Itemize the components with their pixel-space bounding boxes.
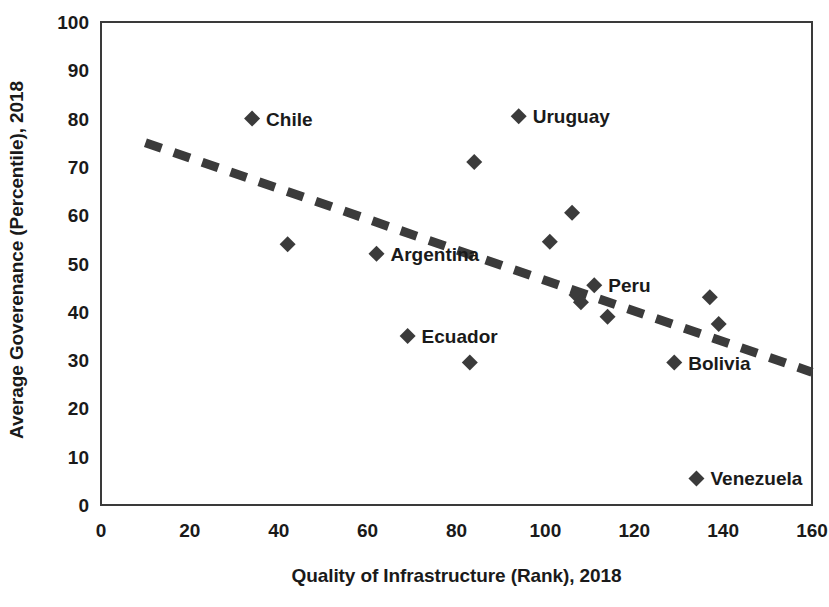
data-point-marker <box>244 111 260 127</box>
x-axis-title-text: Quality of Infrastructure (Rank), 2018 <box>292 565 622 586</box>
x-tick-label: 140 <box>707 520 739 541</box>
x-tick-labels: 020406080100120140160 <box>96 520 828 541</box>
y-tick-label: 100 <box>57 12 89 33</box>
data-point-marker <box>688 470 704 486</box>
y-tick-label: 60 <box>68 205 89 226</box>
y-tick-label: 10 <box>68 447 89 468</box>
data-point-label: Ecuador <box>422 326 499 347</box>
y-tick-label: 70 <box>68 157 89 178</box>
data-point-marker <box>369 246 385 262</box>
x-tick-label: 20 <box>179 520 200 541</box>
data-point-marker <box>466 154 482 170</box>
data-point-marker <box>600 309 616 325</box>
x-tick-label: 120 <box>618 520 650 541</box>
scatter-chart: Average Goverenance (Percentile), 2018 0… <box>0 0 829 607</box>
y-tick-label: 50 <box>68 254 89 275</box>
data-point-marker <box>711 316 727 332</box>
data-point-label: Venezuela <box>710 468 802 489</box>
data-point-label: Peru <box>608 275 650 296</box>
x-axis-title: Quality of Infrastructure (Rank), 2018 <box>101 565 812 587</box>
data-point-label: Uruguay <box>533 106 611 127</box>
y-tick-label: 40 <box>68 302 89 323</box>
data-point-marker <box>542 234 558 250</box>
y-tick-label: 90 <box>68 60 89 81</box>
x-tick-label: 0 <box>96 520 107 541</box>
x-tick-label: 60 <box>357 520 378 541</box>
data-point-labels: ChileArgentinaEcuadorUruguayPeruBoliviaV… <box>266 106 803 489</box>
y-tick-label: 30 <box>68 350 89 371</box>
data-point-marker <box>702 289 718 305</box>
y-tick-label: 0 <box>78 495 89 516</box>
data-point-marker <box>511 108 527 124</box>
data-markers <box>244 108 727 486</box>
y-tick-label: 20 <box>68 398 89 419</box>
x-tick-label: 100 <box>530 520 562 541</box>
data-point-marker <box>564 205 580 221</box>
data-point-label: Argentina <box>391 244 480 265</box>
data-point-marker <box>462 355 478 371</box>
y-tick-label: 80 <box>68 109 89 130</box>
data-point-marker <box>586 277 602 293</box>
data-point-label: Chile <box>266 109 312 130</box>
plot-canvas: 0102030405060708090100 02040608010012014… <box>0 0 829 607</box>
x-tick-label: 40 <box>268 520 289 541</box>
data-point-marker <box>280 236 296 252</box>
y-tick-labels: 0102030405060708090100 <box>57 12 89 516</box>
data-point-marker <box>666 355 682 371</box>
x-tick-label: 160 <box>796 520 828 541</box>
data-point-marker <box>400 328 416 344</box>
x-tick-label: 80 <box>446 520 467 541</box>
data-point-label: Bolivia <box>688 353 751 374</box>
